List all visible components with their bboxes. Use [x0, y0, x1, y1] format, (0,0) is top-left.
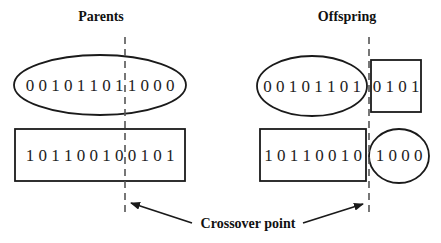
crossover-point-label: Crossover point [201, 216, 296, 231]
offspring-chromosome-2: 1 0 1 1 0 0 1 0 1 0 0 0 [260, 129, 429, 183]
offspring-chromosome-1: 0 0 1 0 1 1 0 1 0 1 0 1 [257, 56, 421, 116]
parents-title: Parents [78, 9, 124, 24]
offspring-2-head-bits: 1 0 1 1 0 0 1 0 [264, 146, 362, 165]
offspring-1-head-bits: 0 0 1 0 1 1 0 1 [263, 77, 361, 96]
right-arrow-icon [303, 204, 363, 223]
parent-chromosome-1: 0 0 1 0 1 1 0 1 1 0 0 0 [14, 55, 186, 115]
left-arrow-icon [131, 203, 192, 223]
parent-2-bits: 1 0 1 1 0 0 1 0 0 1 0 1 [26, 146, 175, 165]
offspring-title: Offspring [318, 9, 376, 24]
parent-1-bits: 0 0 1 0 1 1 0 1 1 0 0 0 [26, 76, 175, 95]
offspring-1-tail-bits: 0 1 0 1 [373, 77, 420, 96]
offspring-2-tail-bits: 1 0 0 0 [376, 146, 423, 165]
crossover-diagram: Parents Offspring 0 0 1 0 1 1 0 1 1 0 0 … [0, 0, 441, 243]
parent-chromosome-2: 1 0 1 1 0 0 1 0 0 1 0 1 [15, 129, 185, 181]
